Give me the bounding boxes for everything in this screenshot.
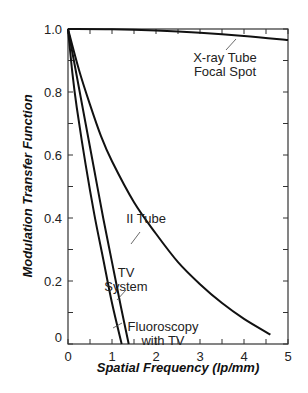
y-tick-label: 1.0 [44, 22, 62, 37]
y-tick-label: 0.6 [44, 148, 62, 163]
curve-x-ray-tube-focal-spot [68, 29, 288, 40]
curve-label: TV [118, 265, 135, 280]
x-tick-label: 5 [284, 349, 291, 364]
leader-line [131, 232, 140, 244]
curve-label: System [104, 279, 147, 294]
leader-line [226, 39, 236, 50]
y-tick-label: 0 [55, 330, 62, 345]
x-tick-label: 0 [64, 349, 71, 364]
x-axis-title: Spatial Frequency (lp/mm) [97, 360, 260, 375]
y-tick-label: 0.4 [44, 211, 62, 226]
curve-annotations: X-ray TubeFocal SpotII TubeTVSystemFluor… [104, 39, 256, 348]
curve-label: X-ray Tube [193, 50, 257, 65]
mtf-chart: 01234500.20.40.60.81.0 X-ray TubeFocal S… [0, 0, 308, 393]
curve-label: II Tube [126, 211, 166, 226]
curve-label: Fluoroscopy [128, 319, 199, 334]
y-axis-title: Modulation Transfer Function [20, 94, 35, 277]
y-tick-label: 0.8 [44, 85, 62, 100]
curve-label: with TV [140, 333, 184, 348]
curve-label: Focal Spot [194, 64, 257, 79]
y-tick-label: 0.2 [44, 274, 62, 289]
